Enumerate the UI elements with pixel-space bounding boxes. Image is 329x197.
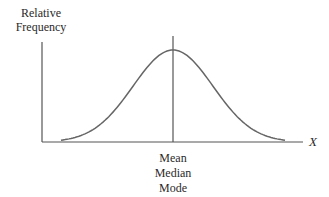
center-annotation: Mean Median Mode bbox=[133, 151, 213, 196]
center-label-mean: Mean bbox=[133, 151, 213, 166]
x-axis-label: X bbox=[309, 134, 317, 150]
center-label-median: Median bbox=[133, 166, 213, 181]
center-label-mode: Mode bbox=[133, 181, 213, 196]
